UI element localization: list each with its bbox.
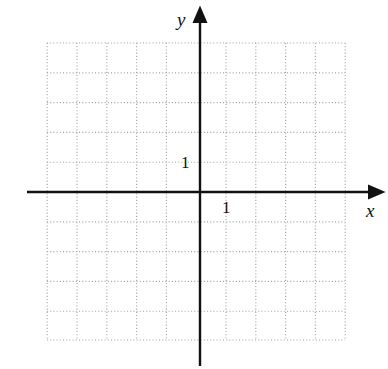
x-axis-tick-label-one: 1 — [222, 199, 231, 216]
x-axis-label: x — [366, 201, 374, 220]
y-axis-label: y — [177, 10, 185, 29]
grid-and-axes-canvas — [0, 0, 388, 369]
coordinate-grid-figure: y x 1 1 — [0, 0, 388, 369]
y-axis-tick-label-one: 1 — [181, 154, 190, 171]
